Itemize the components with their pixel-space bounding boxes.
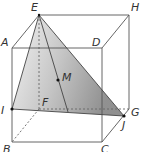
point-e — [38, 14, 40, 16]
label-i: I — [1, 104, 4, 117]
label-b: B — [3, 143, 11, 152]
label-h: H — [131, 1, 139, 14]
label-a: A — [0, 36, 9, 49]
label-e: E — [31, 1, 38, 14]
point-i — [10, 107, 13, 110]
point-j — [122, 114, 125, 117]
edge-fb-hidden — [12, 109, 39, 142]
label-g: G — [131, 106, 140, 119]
section-plane-eij — [12, 15, 124, 116]
edge-hd — [102, 15, 129, 48]
label-f: F — [42, 96, 49, 109]
label-m: M — [62, 71, 72, 84]
label-d: D — [92, 36, 100, 49]
cube-diagram: E H A D M I F G J B C — [0, 0, 141, 152]
label-c: C — [101, 143, 109, 152]
point-m — [56, 78, 59, 81]
label-j: J — [120, 119, 125, 132]
